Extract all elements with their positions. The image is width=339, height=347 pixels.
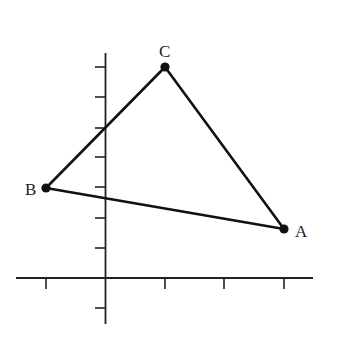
vertex-b-dot	[41, 183, 50, 192]
diagram-svg: A B C	[0, 0, 339, 347]
vertex-a-dot	[279, 224, 288, 233]
vertex-c-dot	[160, 62, 169, 71]
vertex-b-label: B	[25, 180, 36, 199]
vertex-c-label: C	[159, 42, 170, 61]
vertex-a-label: A	[295, 222, 308, 241]
x-ticks	[46, 278, 284, 289]
triangle-abc	[46, 67, 284, 229]
y-ticks	[95, 67, 106, 308]
triangle-diagram: A B C	[0, 0, 339, 347]
